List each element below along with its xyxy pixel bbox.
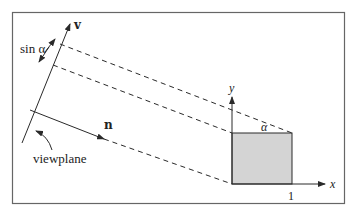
v-axis-label: v bbox=[73, 18, 82, 32]
projector-dashed-bottom bbox=[104, 139, 232, 184]
unit-tick-label: 1 bbox=[288, 189, 294, 203]
x-axis-label: x bbox=[329, 177, 336, 191]
alpha-label: α bbox=[261, 120, 268, 134]
viewplane-pointer-arrow bbox=[36, 131, 52, 150]
normal-n-label: n bbox=[104, 118, 113, 132]
frame-border bbox=[13, 13, 345, 204]
unit-square bbox=[232, 133, 292, 184]
diagram-canvas: v n sin α viewplane y x α 1 bbox=[0, 0, 355, 218]
y-axis-label: y bbox=[228, 81, 235, 95]
viewplane-label: viewplane bbox=[33, 151, 87, 166]
normal-n-arrow bbox=[30, 110, 104, 139]
projector-dashed-top bbox=[60, 44, 292, 133]
sin-alpha-label: sin α bbox=[20, 41, 45, 56]
projector-dashed-middle bbox=[53, 65, 232, 133]
